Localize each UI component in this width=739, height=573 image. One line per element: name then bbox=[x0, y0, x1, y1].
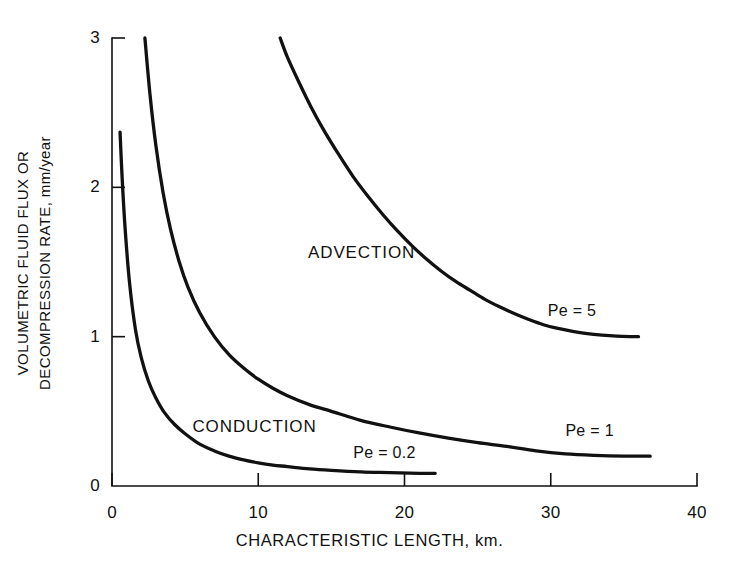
y-axis-title-line2: DECOMPRESSION RATE, mm/year bbox=[34, 136, 56, 390]
curve-label-2: Pe = 5 bbox=[548, 302, 597, 320]
x-tick-label-0: 0 bbox=[107, 503, 117, 523]
y-tick-label-1: 1 bbox=[90, 327, 100, 347]
y-axis-title-line1: VOLUMETRIC FLUID FLUX OR bbox=[14, 151, 31, 376]
x-tick-label-20: 20 bbox=[395, 503, 414, 523]
x-axis-title: CHARACTERISTIC LENGTH, km. bbox=[236, 531, 504, 550]
region-label-advection: ADVECTION bbox=[308, 243, 415, 263]
chart-figure: VOLUMETRIC FLUID FLUX OR DECOMPRESSION R… bbox=[0, 0, 739, 573]
y-axis-title: VOLUMETRIC FLUID FLUX OR DECOMPRESSION R… bbox=[12, 136, 56, 390]
curve-label-0: Pe = 0.2 bbox=[353, 444, 415, 462]
y-tick-label-2: 2 bbox=[90, 177, 100, 197]
curve-pe-5 bbox=[280, 38, 638, 337]
x-tick-label-30: 30 bbox=[541, 503, 560, 523]
y-tick-label-0: 0 bbox=[90, 476, 100, 496]
curve-label-1: Pe = 1 bbox=[565, 422, 614, 440]
x-tick-label-10: 10 bbox=[249, 503, 268, 523]
x-tick-label-40: 40 bbox=[687, 503, 706, 523]
chart-plot-area bbox=[0, 0, 739, 573]
region-label-conduction: CONDUCTION bbox=[192, 417, 316, 437]
y-tick-label-3: 3 bbox=[90, 28, 100, 48]
